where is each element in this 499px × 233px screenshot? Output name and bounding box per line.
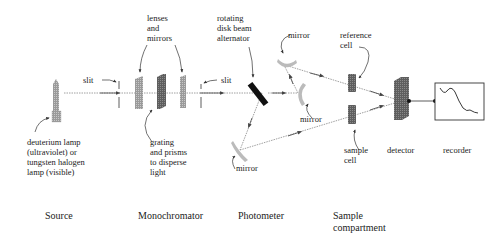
mirror-mid-label: mirror — [300, 114, 322, 124]
sample-cell-icon — [348, 105, 356, 124]
label-pointers — [35, 35, 369, 169]
lamp-icon — [52, 79, 61, 122]
mirror-icon — [231, 59, 306, 162]
section-monochromator: Monochromator — [138, 210, 203, 222]
section-sample-compartment: Sample compartment — [333, 210, 386, 233]
reference-cell-label: reference cell — [340, 30, 372, 50]
section-source: Source — [45, 210, 73, 222]
sample-cell-label: sample cell — [344, 145, 368, 165]
lamp-label: deuterium lamp (ultraviolet) or tungsten… — [27, 137, 85, 177]
mirror-bottom-label: mirror — [236, 163, 258, 173]
slit-label-left: slit — [83, 75, 93, 85]
slit-label-right: slit — [221, 75, 231, 85]
detector-label: detector — [387, 145, 414, 155]
detector-icon — [394, 77, 437, 120]
recorder-label: recorder — [443, 145, 471, 155]
rotating-disk-label: rotating disk beam alternator — [217, 13, 252, 43]
mirror-top-label: mirror — [288, 30, 310, 40]
grating-label: grating and prisms to disperse light — [150, 137, 187, 177]
grating-icon — [157, 74, 166, 109]
reference-cell-icon — [348, 74, 356, 92]
section-photometer: Photometer — [238, 210, 284, 222]
lenses-mirrors-label: lenses and mirrors — [147, 13, 172, 43]
recorder-icon — [435, 83, 484, 120]
